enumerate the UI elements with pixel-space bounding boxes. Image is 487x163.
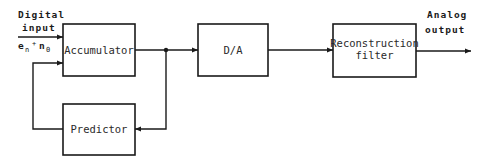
accumulator-block: Accumulator (63, 24, 135, 76)
da-converter-block: D/A (198, 24, 268, 76)
input-label-line1: Digital (18, 9, 65, 20)
dpcm-decoder-block-diagram: Digital input e n + n 0 Accumulator Pred… (0, 0, 487, 163)
signal-n: n (39, 40, 46, 51)
predictor-feedback-wire (33, 63, 63, 129)
signal-e-sub: n (25, 46, 29, 54)
reconstruction-label-line2: filter (356, 49, 394, 61)
signal-e: e (18, 40, 25, 51)
input-label-line2: input (22, 22, 56, 33)
predictor-block: Predictor (63, 104, 135, 155)
output-label-line2: output (425, 24, 465, 35)
da-label: D/A (224, 44, 244, 56)
junction-to-predictor-wire (135, 50, 166, 129)
reconstruction-label-line1: Reconstruction (330, 37, 419, 49)
output-label-line1: Analog (427, 9, 467, 20)
signal-n-sub: 0 (46, 46, 50, 54)
signal-plus: + (32, 40, 36, 48)
input-signal-label: e n + n 0 (18, 40, 50, 54)
predictor-label: Predictor (71, 123, 128, 135)
reconstruction-filter-block: Reconstruction filter (330, 24, 419, 77)
accumulator-label: Accumulator (64, 44, 134, 56)
